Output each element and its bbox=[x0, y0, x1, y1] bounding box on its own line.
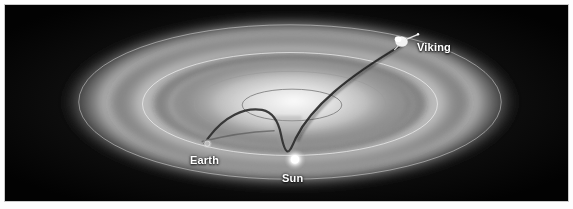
sun-label: Sun bbox=[282, 173, 303, 184]
earth-label: Earth bbox=[190, 155, 219, 166]
figure-root: Viking Earth Sun bbox=[0, 0, 573, 209]
viking-dish bbox=[395, 36, 402, 42]
earth-marker bbox=[205, 141, 210, 146]
image-frame: Viking Earth Sun bbox=[4, 4, 569, 202]
gravity-well-scene: Viking Earth Sun bbox=[5, 5, 568, 201]
viking-label: Viking bbox=[417, 42, 451, 53]
viking-antenna-tip bbox=[417, 33, 419, 35]
sun-marker bbox=[291, 155, 299, 163]
